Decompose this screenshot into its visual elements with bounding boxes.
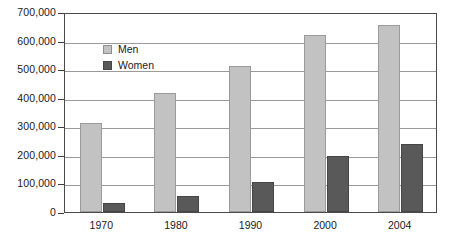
bar-women-2000 — [327, 156, 349, 212]
bar-women-1990 — [252, 182, 274, 212]
bar-men-2000 — [304, 35, 326, 212]
x-axis-labels: 19701980199020002004 — [64, 219, 437, 239]
y-axis-labels: 0100,000200,000300,000400,000500,000600,… — [0, 0, 56, 251]
bar-men-1980 — [154, 93, 176, 212]
x-axis-tick-label: 1970 — [71, 219, 131, 231]
bar-men-1970 — [80, 123, 102, 212]
y-axis-tick-mark — [58, 213, 64, 214]
x-axis-tick-label: 2000 — [295, 219, 355, 231]
plot-area: MenWomen — [64, 13, 437, 213]
x-axis-tick-label: 1980 — [146, 219, 206, 231]
x-axis-tick-label: 1990 — [221, 219, 281, 231]
legend: MenWomen — [103, 43, 154, 71]
y-axis-tick-label: 400,000 — [0, 93, 56, 104]
legend-item-women: Women — [103, 59, 154, 71]
y-axis-tick-label: 500,000 — [0, 64, 56, 75]
legend-label: Men — [118, 44, 138, 55]
legend-label: Women — [118, 60, 154, 71]
bar-women-2004 — [401, 144, 423, 212]
y-axis-tick-label: 100,000 — [0, 178, 56, 189]
y-axis-tick-label: 700,000 — [0, 7, 56, 18]
legend-item-men: Men — [103, 43, 154, 55]
x-axis-tick-label: 2004 — [370, 219, 430, 231]
bar-women-1980 — [177, 196, 199, 212]
y-axis-tick-label: 200,000 — [0, 150, 56, 161]
bar-women-1970 — [103, 203, 125, 212]
bar-men-2004 — [378, 25, 400, 212]
legend-swatch-icon — [103, 45, 112, 54]
bar-men-1990 — [229, 66, 251, 212]
bar-chart: 0100,000200,000300,000400,000500,000600,… — [0, 0, 456, 251]
y-axis-tick-label: 0 — [0, 207, 56, 218]
legend-swatch-icon — [103, 61, 112, 70]
y-axis-tick-label: 300,000 — [0, 121, 56, 132]
y-axis-tick-label: 600,000 — [0, 36, 56, 47]
